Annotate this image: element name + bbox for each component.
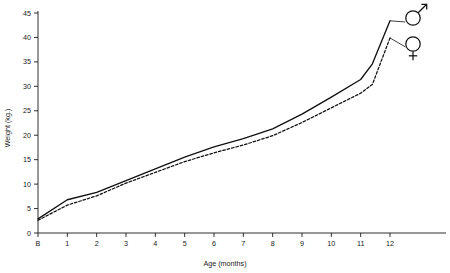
y-tick-label: 0 bbox=[27, 229, 31, 238]
male-symbol bbox=[406, 4, 427, 25]
growth-chart: 051015202530354045 B123456789101112 Age … bbox=[0, 0, 450, 273]
chart-canvas: 051015202530354045 B123456789101112 Age … bbox=[0, 0, 450, 273]
x-tick-label: 1 bbox=[65, 239, 69, 248]
x-tick-label: 3 bbox=[124, 239, 128, 248]
y-tick-label: 45 bbox=[23, 9, 31, 18]
x-tick-label: 2 bbox=[95, 239, 99, 248]
x-tick-label: 10 bbox=[327, 239, 335, 248]
x-axis: B123456789101112 bbox=[36, 233, 446, 248]
x-tick-label: B bbox=[36, 239, 41, 248]
male-leader-line bbox=[390, 21, 405, 22]
y-tick-label: 5 bbox=[27, 204, 31, 213]
x-tick-label: 6 bbox=[212, 239, 216, 248]
y-tick-label: 10 bbox=[23, 180, 31, 189]
x-tick-label: 7 bbox=[241, 239, 245, 248]
y-axis-title: Weight (kg.) bbox=[3, 109, 12, 148]
x-tick-label: 5 bbox=[183, 239, 187, 248]
female-leader-line bbox=[390, 38, 405, 47]
y-tick-label: 35 bbox=[23, 57, 31, 66]
x-tick-label: 12 bbox=[386, 239, 394, 248]
female-symbol bbox=[406, 37, 420, 60]
series-line-male bbox=[38, 21, 390, 219]
series-line-female bbox=[38, 38, 390, 220]
x-axis-title: Age (months) bbox=[203, 259, 246, 268]
y-tick-label: 30 bbox=[23, 82, 31, 91]
y-tick-label: 25 bbox=[23, 106, 31, 115]
y-tick-label: 15 bbox=[23, 155, 31, 164]
x-tick-label: 9 bbox=[300, 239, 304, 248]
y-tick-label: 20 bbox=[23, 131, 31, 140]
x-tick-label: 8 bbox=[271, 239, 275, 248]
x-tick-label: 11 bbox=[357, 239, 364, 248]
legend bbox=[390, 4, 427, 60]
y-axis: 051015202530354045 bbox=[23, 9, 38, 238]
y-tick-label: 40 bbox=[23, 33, 31, 42]
x-tick-label: 4 bbox=[153, 239, 157, 248]
